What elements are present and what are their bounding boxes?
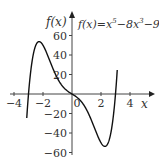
equation-label: f(x)=x5−8x3−9x (77, 17, 159, 31)
y-tick-label: −40 (44, 127, 67, 140)
x-axis-arrow-icon (149, 91, 155, 97)
x-tick-label: 4 (127, 97, 134, 110)
x-tick-label: −4 (6, 97, 22, 110)
y-axis-label: f(x) (45, 15, 67, 29)
function-plot: −4−2024 604020−20−40−60 f(x) x f(x)=x5−8… (0, 0, 159, 157)
y-tick-label: 40 (53, 49, 67, 62)
x-tick-label: 2 (98, 97, 105, 110)
y-ticks: 604020−20−40−60 (44, 30, 72, 158)
y-tick-label: −20 (44, 108, 67, 121)
y-tick-label: −60 (44, 147, 67, 158)
y-axis-arrow-icon (69, 11, 75, 18)
x-axis-label: x (141, 97, 148, 111)
y-tick-label: 60 (53, 30, 67, 43)
